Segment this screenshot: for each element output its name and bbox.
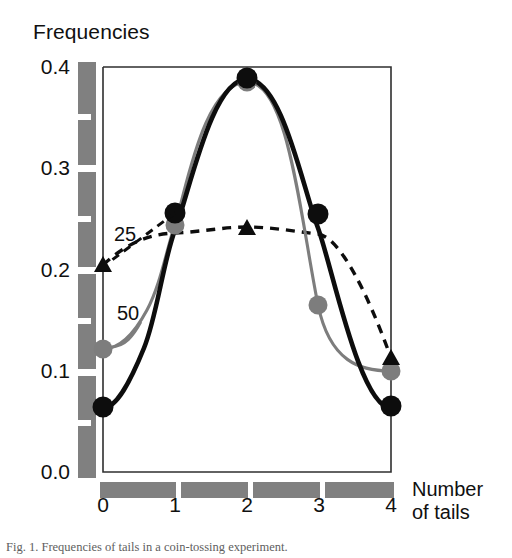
x-axis-title: Number of tails xyxy=(412,478,483,524)
x-axis-title-line1: Number xyxy=(412,478,483,501)
figure-coin-toss-frequencies: Frequencies 0.4 0.3 0.2 0.1 0.0 0 1 2 3 … xyxy=(0,0,512,558)
y-axis-scale-bar xyxy=(78,62,96,478)
x-tick-3: 3 xyxy=(304,494,334,515)
figure-caption: Fig. 1. Frequencies of tails in a coin-t… xyxy=(6,540,506,556)
x-axis-title-line2: of tails xyxy=(412,501,483,524)
x-tick-1: 1 xyxy=(160,494,190,515)
series-note-50: 50 xyxy=(117,303,139,323)
series-note-25: 25 xyxy=(114,224,136,244)
y-axis-title: Frequencies xyxy=(33,20,150,44)
x-tick-4: 4 xyxy=(376,494,406,515)
x-tick-2: 2 xyxy=(232,494,262,515)
plot-frame xyxy=(103,67,391,472)
plot-canvas xyxy=(0,0,512,558)
x-tick-0: 0 xyxy=(88,494,118,515)
